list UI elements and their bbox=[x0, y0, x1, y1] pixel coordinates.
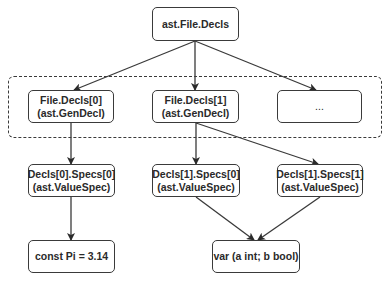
node-type: (ast.ValueSpec) bbox=[157, 181, 235, 194]
node-label: const Pi = 3.14 bbox=[35, 250, 108, 263]
node-type: (ast.GenDecl) bbox=[37, 107, 105, 120]
node-decls-1: File.Decls[1] (ast.GenDecl) bbox=[152, 90, 239, 123]
node-spec-1-0: Decls[1].Specs[0] (ast.ValueSpec) bbox=[152, 164, 240, 197]
node-var-ab: var (a int; b bool) bbox=[212, 240, 300, 273]
node-decls-0: File.Decls[0] (ast.GenDecl) bbox=[28, 90, 114, 123]
node-label: var (a int; b bool) bbox=[213, 250, 298, 263]
node-type: (ast.ValueSpec) bbox=[33, 181, 111, 194]
node-spec-0-0: Decls[0].Specs[0] (ast.ValueSpec) bbox=[28, 164, 115, 197]
node-const-pi: const Pi = 3.14 bbox=[28, 240, 115, 273]
node-type: (ast.GenDecl) bbox=[162, 107, 230, 120]
node-label: Decls[1].Specs[0] bbox=[152, 168, 240, 181]
node-type: (ast.ValueSpec) bbox=[281, 181, 359, 194]
ast-diagram: ast.File.Decls File.Decls[0] (ast.GenDec… bbox=[0, 0, 386, 281]
node-label: Decls[0].Specs[0] bbox=[28, 168, 116, 181]
node-spec-1-1: Decls[1].Specs[1] (ast.ValueSpec) bbox=[277, 164, 363, 197]
edge-spec10-var bbox=[196, 197, 254, 240]
node-file-decls: ast.File.Decls bbox=[152, 7, 239, 41]
node-label: ast.File.Decls bbox=[162, 18, 229, 31]
node-decls-more: ... bbox=[277, 90, 362, 123]
node-label: Decls[1].Specs[1] bbox=[276, 168, 364, 181]
edge-spec11-var bbox=[258, 197, 320, 240]
node-label: File.Decls[0] bbox=[40, 94, 102, 107]
node-label: File.Decls[1] bbox=[165, 94, 227, 107]
edges bbox=[0, 0, 386, 281]
node-label: ... bbox=[315, 100, 324, 113]
